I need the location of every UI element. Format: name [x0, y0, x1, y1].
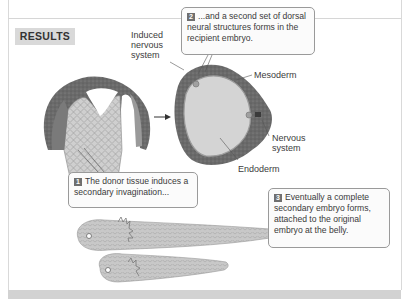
label-line: Nervous — [272, 133, 306, 143]
callout-text: recipient embryo. — [187, 33, 309, 44]
callout-text: neural structures forms in the — [187, 22, 309, 33]
step-number-badge: 3 — [274, 194, 282, 202]
callout-line: 3Eventually a complete — [274, 192, 384, 203]
mesoderm-label: Mesoderm — [254, 70, 297, 80]
callout-2: 2...and a second set of dorsal neural st… — [181, 7, 315, 55]
label-line: nervous — [131, 40, 163, 50]
gastrula-illustration — [44, 77, 150, 185]
callout-text: attached to the original — [274, 214, 384, 225]
label-line: system — [131, 50, 163, 60]
nervous-system-label: Nervous system — [272, 133, 306, 153]
callout-line: 1The donor tissue induces a — [74, 176, 192, 187]
callout-text: embryo at the belly. — [274, 225, 384, 236]
step-number-badge: 2 — [187, 13, 195, 21]
callout-text: ...and a second set of dorsal — [198, 11, 306, 21]
step-number-badge: 1 — [74, 178, 82, 186]
label-line: system — [272, 143, 306, 153]
tadpoles-illustration — [77, 217, 273, 282]
callout-3: 3Eventually a complete secondary embryo … — [268, 188, 390, 248]
callout-line: 2...and a second set of dorsal — [187, 11, 309, 22]
callout-text: secondary invagination... — [74, 187, 192, 198]
label-line: Induced — [131, 30, 163, 40]
callout-text: The donor tissue induces a — [85, 176, 188, 186]
callout-1: 1The donor tissue induces a secondary in… — [68, 172, 198, 208]
induced-nervous-system-label: Induced nervous system — [131, 30, 163, 60]
callout-text: Eventually a complete — [285, 192, 369, 202]
arrow-icon — [154, 114, 171, 120]
callout-text: secondary embryo forms, — [274, 203, 384, 214]
endoderm-label: Endoderm — [238, 164, 280, 174]
